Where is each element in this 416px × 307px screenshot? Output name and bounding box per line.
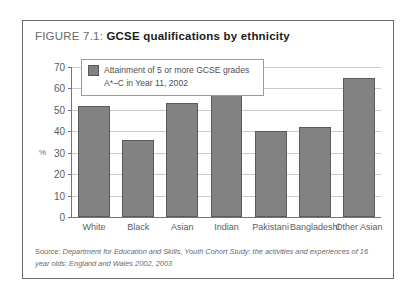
source-lead: Source: [35,247,60,256]
bar [343,78,375,217]
chart-legend: Attainment of 5 or more GCSE grades A*–C… [81,59,264,96]
y-axis-title: % [39,148,46,157]
y-axis-label-0: 0 [59,212,65,223]
y-axis-label-50: 50 [54,104,65,115]
source-note: Source: Department for Education and Ski… [35,246,381,269]
y-axis-label-70: 70 [54,62,65,73]
y-axis-label-20: 20 [54,169,65,180]
x-axis-label: Other Asian [335,222,382,232]
bar-group: Bangladeshi [293,67,337,217]
source-text: Department for Education and Skills, You… [35,247,368,267]
y-axis-tick [68,217,72,218]
x-axis-label: White [83,222,106,232]
figure-title: FIGURE 7.1: GCSE qualifications by ethni… [35,30,290,42]
y-axis-label-30: 30 [54,147,65,158]
figure-container: FIGURE 7.1: GCSE qualifications by ethni… [22,20,394,279]
bar [211,88,243,217]
bar [255,131,287,217]
bar [299,127,331,217]
x-axis-label: Bangladeshi [290,222,340,232]
legend-swatch-icon [88,65,99,76]
x-axis-label: Indian [214,222,239,232]
y-axis-label-10: 10 [54,190,65,201]
x-axis-label: Pakistani [252,222,289,232]
figure-heading: GCSE qualifications by ethnicity [106,30,289,42]
y-axis-label-60: 60 [54,83,65,94]
legend-label: Attainment of 5 or more GCSE grades A*–C… [104,64,256,90]
bar-group: Other Asian [337,67,381,217]
bar [122,140,154,217]
chart-plot-wrapper: % 70 60 50 40 30 20 10 0 WhiteB [23,59,395,245]
x-axis-label: Asian [171,222,194,232]
bar [166,103,198,217]
bar [78,106,110,217]
figure-number: FIGURE 7.1: [35,30,103,42]
x-axis-label: Black [127,222,149,232]
y-axis-label-40: 40 [54,126,65,137]
